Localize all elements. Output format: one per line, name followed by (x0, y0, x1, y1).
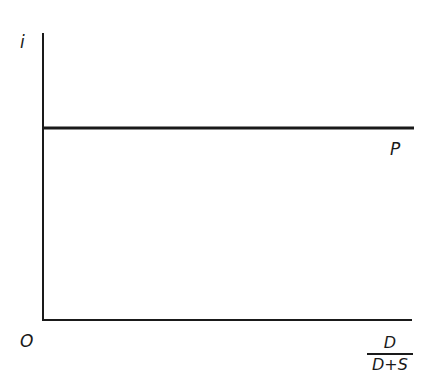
x-axis-label-numerator: D (367, 335, 413, 355)
x-axis-label: D D+S (367, 335, 413, 373)
series-label-p: P (390, 141, 400, 158)
x-axis-label-denominator: D+S (367, 355, 413, 373)
origin-label: O (20, 333, 33, 350)
y-axis-label: i (20, 34, 25, 51)
chart-canvas (0, 0, 433, 389)
